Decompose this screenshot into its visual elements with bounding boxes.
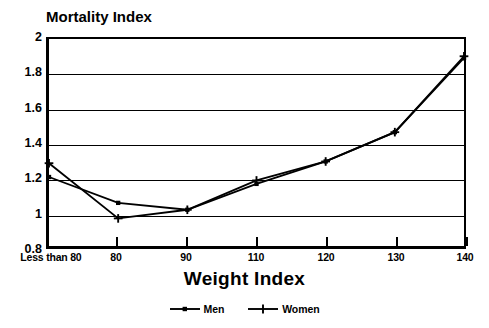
x-axis-tick-labels: Less than 808090110120130140	[0, 251, 489, 267]
x-axis-tick-label: 140	[457, 251, 474, 263]
x-axis-tick-label: Less than 80	[20, 251, 81, 263]
x-axis-tick	[46, 237, 48, 246]
x-axis-tick	[256, 237, 258, 246]
x-axis-tick-label: 130	[388, 251, 405, 263]
legend-marker-plus-icon	[248, 303, 278, 315]
x-axis-tick-label: 110	[248, 251, 264, 263]
data-point-women-4	[321, 157, 330, 166]
series-lines	[49, 39, 464, 246]
x-axis-title: Weight Index	[0, 268, 489, 290]
x-axis-tick	[326, 237, 328, 246]
legend-item-women: Women	[248, 303, 319, 315]
chart-legend: MenWomen	[0, 303, 489, 315]
legend-item-men: Men	[170, 303, 225, 315]
x-axis-ticks	[46, 237, 466, 249]
x-axis-tick	[396, 237, 398, 246]
x-axis-tick-label: 80	[110, 251, 121, 263]
legend-label: Women	[282, 303, 319, 315]
y-axis-tick-label: 2	[35, 30, 42, 44]
legend-label: Men	[204, 303, 225, 315]
y-axis-tick-labels: 0.811.21.41.61.82	[0, 37, 42, 249]
y-axis-tick-label: 1	[35, 207, 42, 221]
x-axis-tick-label: 90	[180, 251, 191, 263]
x-axis-tick	[466, 237, 468, 246]
y-axis-tick-label: 1.4	[25, 136, 42, 150]
y-axis-tick-label: 1.2	[25, 171, 42, 185]
series-line-women	[49, 56, 464, 218]
data-point-men-1	[116, 201, 120, 205]
mortality-index-line-chart: Mortality Index 0.811.21.41.61.82 Less t…	[0, 0, 489, 328]
x-axis-tick-label: 120	[318, 251, 335, 263]
data-point-women-2	[183, 205, 192, 214]
plot-area	[46, 37, 466, 249]
y-axis-tick-label: 1.8	[25, 65, 42, 79]
y-axis-tick-label: 1.6	[25, 101, 42, 115]
series-line-men	[49, 58, 464, 210]
legend-marker-square-icon	[170, 303, 200, 315]
y-axis-title: Mortality Index	[46, 8, 152, 25]
data-point-men-0	[47, 175, 51, 179]
x-axis-tick	[186, 237, 188, 246]
x-axis-tick	[116, 237, 118, 246]
